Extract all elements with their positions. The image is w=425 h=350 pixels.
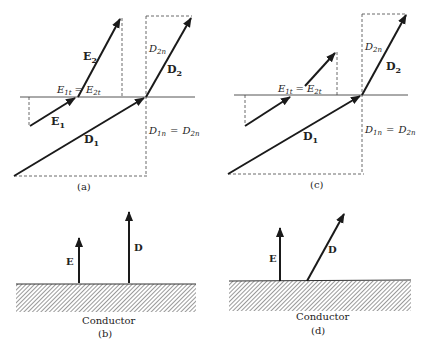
e1-label: E1 [51, 115, 65, 130]
e-label: E [269, 253, 277, 264]
dn-equality-label: D1n=D2n [148, 125, 200, 138]
d1-label: D1 [303, 130, 318, 145]
d-label: D [134, 242, 143, 253]
panel-d: E D Conductor (d) [229, 214, 411, 336]
d-label: D [328, 244, 337, 255]
d1-vector [228, 96, 360, 174]
et-equality-label: E1t=E2t [277, 83, 322, 96]
d2n-label: D2n [364, 41, 382, 54]
boundary-conditions-figure: E2 E1 D1 D2 E1t=E2t D2n D1n=D2n (a) D1 D… [0, 0, 425, 350]
panel-b: E D Conductor (b) [16, 212, 196, 339]
caption-b: (b) [98, 328, 112, 339]
conductor-label: Conductor [296, 311, 350, 322]
caption-c: (c) [310, 179, 324, 190]
construction-lines [14, 16, 192, 176]
e-label: E [66, 256, 74, 267]
e2-vector [305, 53, 335, 86]
panel-a: E2 E1 D1 D2 E1t=E2t D2n D1n=D2n (a) [14, 16, 200, 192]
conductor-surface [16, 284, 196, 312]
dn-equality-label: D1n=D2n [364, 124, 416, 137]
e1-vector [245, 97, 290, 126]
conductor-surface [229, 281, 411, 311]
d1-vector [14, 98, 144, 176]
conductor-label: Conductor [82, 315, 136, 326]
d1-label: D1 [84, 133, 99, 148]
caption-d: (d) [311, 325, 325, 336]
d2-label: D2 [167, 63, 182, 78]
d-vector [307, 214, 344, 281]
d2n-label: D2n [148, 43, 166, 56]
d2-label: D2 [386, 60, 401, 75]
e2-label: E2 [83, 50, 97, 65]
d2-vector [362, 15, 406, 95]
d2-vector [146, 18, 191, 97]
panel-c: D1 D2 E1t=E2t D2n D1n=D2n (c) [228, 14, 416, 190]
caption-a: (a) [77, 181, 91, 192]
